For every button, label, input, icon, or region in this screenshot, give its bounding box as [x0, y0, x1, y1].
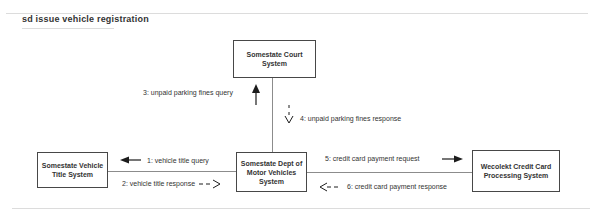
node-label-line: Processing System	[484, 171, 549, 180]
frame-bottom-line	[12, 208, 590, 209]
message-3-solid-up-arrow-icon	[250, 84, 262, 106]
node-somestate-vehicle-title-system: Somestate Vehicle Title System	[37, 152, 108, 188]
node-somestate-court-system: Somestate Court System	[233, 40, 316, 78]
message-1-label: 1: vehicle title query	[147, 157, 209, 165]
node-label-line: Somestate Court	[246, 50, 302, 59]
message-4-label: 4: unpaid parking fines response	[300, 115, 401, 123]
diagram-title: sd issue vehicle registration	[22, 14, 149, 24]
node-label-line: Title System	[52, 170, 93, 179]
message-6-dashed-left-arrow-icon	[318, 182, 342, 192]
message-5-label: 5: credit card payment request	[325, 155, 420, 163]
node-label-line: Somestate Dept of	[241, 159, 302, 168]
message-6-label: 6: credit card payment response	[347, 183, 447, 191]
message-4-dashed-down-arrow-icon	[283, 105, 295, 125]
node-somestate-dept-of-motor-vehicles: Somestate Dept of Motor Vehicles System	[236, 152, 307, 192]
message-5-solid-right-arrow-icon	[441, 155, 463, 163]
link-titlesystem-dmv	[108, 171, 236, 172]
message-2-dashed-right-arrow-icon	[198, 179, 222, 189]
node-label-line: System	[262, 59, 287, 68]
frame-title-underline	[22, 28, 114, 29]
node-label-line: Somestate Vehicle	[42, 161, 103, 170]
message-1-solid-left-arrow-icon	[120, 156, 142, 164]
link-court-dmv	[272, 78, 273, 152]
sequence-diagram-canvas: sd issue vehicle registration Somestate …	[0, 0, 594, 219]
message-2-label: 2: vehicle title response	[122, 180, 195, 188]
node-label-line: Wecolekt Credit Card	[481, 162, 552, 171]
node-label-line: Motor Vehicles	[247, 168, 296, 177]
node-wecolekt-credit-card-processing: Wecolekt Credit Card Processing System	[472, 150, 560, 192]
node-label-line: System	[259, 177, 284, 186]
link-dmv-wecolekt	[307, 172, 472, 173]
message-3-label: 3: unpaid parking fines query	[143, 89, 233, 97]
